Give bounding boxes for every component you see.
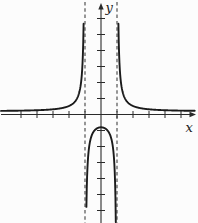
y-axis-label: y [105, 0, 114, 15]
x-axis-arrowhead [190, 112, 197, 117]
curve-branch-left [1, 24, 84, 111]
function-plot: y x [0, 0, 198, 223]
x-axis-label: x [186, 120, 194, 135]
y-axis-arrowhead [98, 3, 103, 10]
figure-container: y x [0, 0, 198, 223]
axes-layer [1, 3, 196, 223]
curve-branch-right [118, 24, 194, 111]
curve-layer [1, 24, 195, 222]
